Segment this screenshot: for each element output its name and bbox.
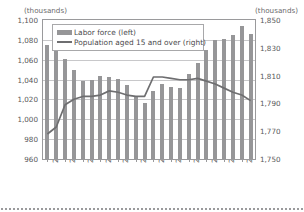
left-axis-tick-label: 980 [4,135,38,144]
bar-swatch-icon [57,30,72,35]
left-axis-unit-label: (thousands) [24,6,67,15]
line-swatch-icon [57,41,72,43]
left-axis-tick-label: 960 [4,155,38,164]
right-axis-tick-label: 1,850 [260,16,281,25]
left-axis-tick-label: 1,060 [4,56,38,65]
left-axis-tick-label: 1,020 [4,95,38,104]
legend-item-labor-force: Labor force (left) [57,27,200,37]
left-axis-tick-label: 1,040 [4,76,38,85]
right-axis-tick-label: 1,770 [260,127,281,136]
right-axis-tick-label: 1,830 [260,44,281,53]
left-axis-tick-label: 1,100 [4,16,38,25]
left-axis-tick-label: 1,000 [4,115,38,124]
chart-legend: Labor force (left) Population aged 15 an… [52,24,204,51]
bottom-dotted-rule [0,208,304,210]
right-axis-tick-label: 1,790 [260,99,281,108]
right-axis-tick-label: 1,750 [260,155,281,164]
left-axis-tick-label: 1,080 [4,36,38,45]
population-line-path [47,77,250,134]
legend-label-population: Population aged 15 and over (right) [74,38,206,47]
legend-item-population: Population aged 15 and over (right) [57,37,200,47]
right-axis-unit-label: (thousands) [255,6,298,15]
right-axis-tick-label: 1,810 [260,72,281,81]
chart-figure: (thousands) (thousands) 1,1001,0801,0601… [0,0,304,212]
legend-label-labor-force: Labor force (left) [74,28,136,37]
